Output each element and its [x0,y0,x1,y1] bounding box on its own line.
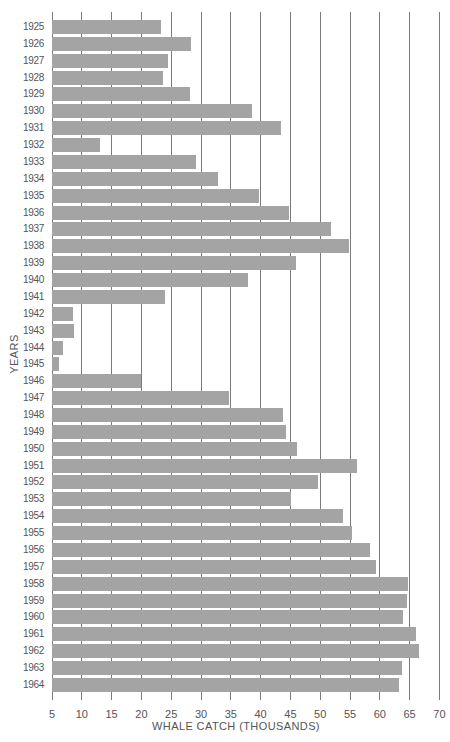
year-label: 1934 [0,173,44,184]
x-tick-label: 65 [395,708,425,720]
x-tick-label: 35 [216,708,246,720]
year-label: 1936 [0,207,44,218]
x-tick-label: 45 [275,708,305,720]
year-label: 1929 [0,88,44,99]
gridline [439,12,440,700]
x-axis-label: WHALE CATCH (THOUSANDS) [0,720,444,732]
bar-1927 [52,54,168,68]
x-tick-label: 15 [97,708,127,720]
bar-1947 [52,391,229,405]
bar-1925 [52,20,161,34]
year-label: 1943 [0,325,44,336]
bar-1946 [52,374,141,388]
year-label: 1935 [0,190,44,201]
year-label: 1933 [0,156,44,167]
year-label: 1928 [0,72,44,83]
bar-1944 [52,341,63,355]
x-tick-label: 55 [335,708,365,720]
bar-1960 [52,610,403,624]
bar-1962 [52,644,419,658]
year-label: 1963 [0,662,44,673]
x-tick-label: 5 [37,708,67,720]
year-label: 1955 [0,527,44,538]
bar-1958 [52,577,408,591]
bar-1964 [52,678,399,692]
bar-1940 [52,273,248,287]
bar-1931 [52,121,281,135]
year-label: 1958 [0,578,44,589]
year-label: 1942 [0,308,44,319]
year-label: 1952 [0,476,44,487]
x-tick-label: 70 [424,708,450,720]
year-label: 1938 [0,240,44,251]
year-label: 1931 [0,122,44,133]
bar-1948 [52,408,283,422]
bar-1957 [52,560,376,574]
bar-1938 [52,239,349,253]
year-label: 1930 [0,105,44,116]
year-label: 1950 [0,443,44,454]
year-label: 1932 [0,139,44,150]
x-tick-label: 20 [126,708,156,720]
year-label: 1959 [0,595,44,606]
bar-1941 [52,290,165,304]
bar-1945 [52,357,59,371]
bar-1954 [52,509,343,523]
year-label: 1953 [0,493,44,504]
year-label: 1937 [0,223,44,234]
bar-1955 [52,526,352,540]
bar-1950 [52,442,297,456]
bar-1959 [52,594,407,608]
bar-1932 [52,138,100,152]
year-label: 1949 [0,426,44,437]
bar-1952 [52,475,318,489]
bar-1934 [52,172,218,186]
bar-1935 [52,189,259,203]
bar-1949 [52,425,286,439]
bar-1963 [52,661,402,675]
year-label: 1941 [0,291,44,302]
year-label: 1957 [0,561,44,572]
bar-1953 [52,492,291,506]
year-label: 1944 [0,342,44,353]
bar-1951 [52,459,357,473]
year-label: 1946 [0,375,44,386]
bar-1956 [52,543,370,557]
x-tick-label: 25 [156,708,186,720]
bar-1936 [52,206,289,220]
gridline [409,12,410,700]
bar-1929 [52,87,190,101]
year-label: 1960 [0,611,44,622]
x-tick-label: 40 [246,708,276,720]
year-label: 1925 [0,21,44,32]
year-label: 1945 [0,358,44,369]
year-label: 1961 [0,628,44,639]
bar-1939 [52,256,296,270]
x-tick-label: 50 [305,708,335,720]
year-label: 1962 [0,645,44,656]
bar-1942 [52,307,73,321]
year-label: 1926 [0,38,44,49]
year-label: 1927 [0,55,44,66]
year-label: 1940 [0,274,44,285]
bar-1933 [52,155,196,169]
x-tick-label: 10 [67,708,97,720]
x-tick-label: 30 [186,708,216,720]
year-label: 1939 [0,257,44,268]
bar-1943 [52,324,74,338]
bar-1930 [52,104,252,118]
x-tick-label: 60 [365,708,395,720]
bar-1961 [52,627,416,641]
bar-1937 [52,222,331,236]
bar-1926 [52,37,191,51]
year-label: 1948 [0,409,44,420]
year-label: 1947 [0,392,44,403]
year-label: 1956 [0,544,44,555]
year-label: 1964 [0,679,44,690]
year-label: 1954 [0,510,44,521]
bar-1928 [52,71,163,85]
y-axis-label: YEARS [8,334,20,374]
year-label: 1951 [0,460,44,471]
